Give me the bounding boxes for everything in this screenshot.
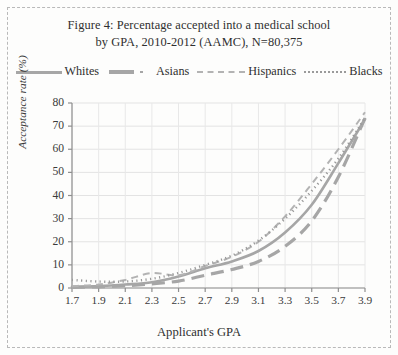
legend-swatch-dotted-icon (304, 67, 346, 77)
x-tick-label: 3.1 (243, 294, 273, 306)
figure-title-line-2: by GPA, 2010-2012 (AAMC), N=80,375 (0, 34, 398, 51)
legend-swatch-long-dash-icon (109, 67, 153, 77)
figure-container: Figure 4: Percentage accepted into a med… (0, 0, 398, 355)
x-tick-label: 2.7 (190, 294, 220, 306)
y-tick-label: 50 (38, 165, 64, 178)
x-tick-label: 3.9 (350, 294, 380, 306)
legend-item-hispanics: Hispanics (197, 64, 296, 79)
series-line-hispanics (72, 112, 365, 286)
data-series-group (72, 112, 365, 287)
x-tick-label: 2.9 (217, 294, 247, 306)
x-tick-label: 1.9 (84, 294, 114, 306)
x-tick-label: 2.5 (164, 294, 194, 306)
x-tick-label: 1.7 (57, 294, 87, 306)
legend-label-blacks: Blacks (346, 64, 382, 79)
x-tick-label: 3.3 (270, 294, 300, 306)
x-tick-label: 2.3 (137, 294, 167, 306)
legend-label-asians: Asians (153, 64, 189, 79)
y-tick-label: 70 (38, 119, 64, 132)
y-tick-label: 20 (38, 235, 64, 248)
x-tick-label: 3.5 (297, 294, 327, 306)
legend-swatch-dashed-icon (197, 67, 245, 77)
y-tick-label: 30 (38, 212, 64, 225)
y-tick-label: 60 (38, 142, 64, 155)
y-axis-label: Acceptance rate (%) (16, 47, 28, 157)
x-tick-label: 2.1 (110, 294, 140, 306)
x-axis-label: Applicant's GPA (0, 325, 398, 340)
figure-title-line-1: Figure 4: Percentage accepted into a med… (0, 17, 398, 34)
legend-item-blacks: Blacks (304, 64, 382, 79)
y-tick-label: 10 (38, 258, 64, 271)
figure-title: Figure 4: Percentage accepted into a med… (0, 17, 398, 50)
y-tick-label: 0 (38, 281, 64, 294)
legend-item-whites: Whites (16, 64, 100, 79)
legend-label-whites: Whites (62, 64, 100, 79)
tick-marks (68, 103, 365, 292)
chart-legend: Whites Asians Hispanics Blacks (0, 64, 398, 79)
series-line-blacks (72, 118, 365, 282)
x-tick-label: 3.7 (323, 294, 353, 306)
plot-area: 01020304050607080 (0, 88, 398, 318)
legend-label-hispanics: Hispanics (245, 64, 296, 79)
gridlines (72, 103, 365, 288)
legend-item-asians: Asians (109, 64, 189, 79)
y-tick-label: 40 (38, 189, 64, 202)
y-tick-label: 80 (38, 96, 64, 109)
